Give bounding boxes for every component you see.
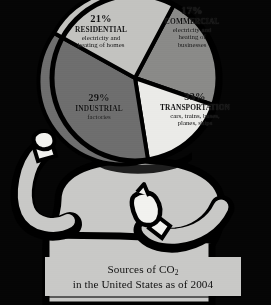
slice-label-residential: 21% RESIDENTIAL electricity and heating … xyxy=(55,14,147,48)
caption-line-1: Sources of CO2 xyxy=(107,262,178,276)
slice-name-industrial: INDUSTRIAL xyxy=(55,105,143,113)
slice-name-residential: RESIDENTIAL xyxy=(55,26,147,34)
slice-name-commercial: COMMERCIAL xyxy=(152,18,232,26)
slice-percent-residential: 21% xyxy=(55,14,147,25)
slice-percent-transportation: 33% xyxy=(143,92,247,103)
caption-box: Sources of CO2 in the United States as o… xyxy=(45,257,241,296)
caption-line-2: in the United States as of 2004 xyxy=(73,277,213,291)
slice-desc-residential-line1: electricity and xyxy=(55,34,147,41)
slice-label-commercial: 17% COMMERCIAL electricity and heating o… xyxy=(152,6,232,48)
caption-line-1-text: Sources of CO xyxy=(107,263,174,275)
slice-desc-industrial-line1: factories xyxy=(55,113,143,120)
slice-desc-commercial-line3: businesses xyxy=(152,41,232,48)
caption-subscript: 2 xyxy=(175,268,179,277)
right-hand-pointing xyxy=(132,192,160,225)
slice-desc-commercial-line1: electricity and xyxy=(152,26,232,33)
illustration-canvas: 21% RESIDENTIAL electricity and heating … xyxy=(0,0,271,305)
slice-label-industrial: 29% INDUSTRIAL factories xyxy=(55,93,143,120)
slice-name-transportation: TRANSPORTATION xyxy=(143,104,247,112)
slice-desc-transportation-line2: planes, ships xyxy=(143,119,247,126)
left-hand xyxy=(33,131,54,149)
slice-desc-commercial-line2: heating of xyxy=(152,33,232,40)
slice-desc-residential-line2: heating of homes xyxy=(55,41,147,48)
slice-percent-commercial: 17% xyxy=(152,6,232,17)
slice-desc-transportation-line1: cars, trains, buses, xyxy=(143,112,247,119)
slice-percent-industrial: 29% xyxy=(55,93,143,104)
slice-label-transportation: 33% TRANSPORTATION cars, trains, buses, … xyxy=(143,92,247,126)
